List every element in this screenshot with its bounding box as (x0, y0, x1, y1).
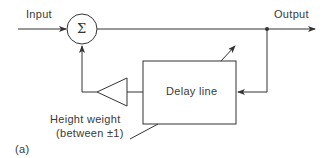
feedback-arrow (82, 46, 97, 92)
variable-arrow (221, 46, 235, 61)
diagram-lines (0, 0, 329, 158)
sigma-symbol: Σ (77, 21, 86, 36)
weight-label: Height weight (50, 113, 121, 125)
delay-line-label: Delay line (166, 85, 217, 97)
weight-triangle (97, 78, 127, 106)
panel-label: (a) (15, 143, 29, 155)
input-label: Input (26, 8, 52, 20)
feedforward-arrow (238, 29, 267, 92)
comb-filter-diagram: Input Output Σ Delay line Height weight … (0, 0, 329, 158)
variable-tail (130, 124, 158, 139)
weight-range-label: (between ±1) (56, 127, 124, 139)
output-label: Output (274, 8, 309, 20)
